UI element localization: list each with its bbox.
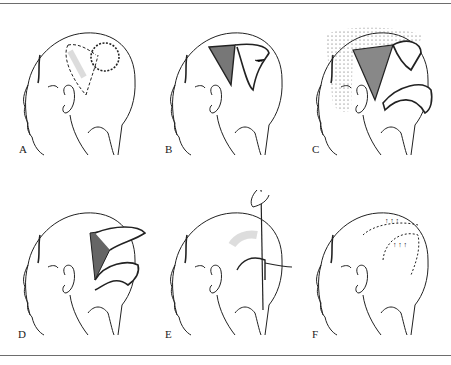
panel-label-a: A (19, 143, 27, 155)
panel-e (157, 190, 297, 360)
head-illustration-icon (303, 10, 443, 160)
panel-label-b: B (165, 143, 172, 155)
panel-c (303, 10, 443, 180)
panel-label-f: F (312, 328, 318, 340)
head-illustration-icon (157, 10, 297, 160)
head-illustration-icon (157, 190, 297, 340)
bottom-rule (0, 355, 451, 356)
head-illustration-icon (10, 190, 150, 340)
panel-label-e: E (165, 328, 172, 340)
panel-b (157, 10, 297, 180)
panel-label-c: C (312, 143, 319, 155)
svg-text:↑ ↑ ↑: ↑ ↑ ↑ (385, 217, 399, 225)
svg-text:↑ ↑ ↑: ↑ ↑ ↑ (393, 241, 407, 249)
head-illustration-icon (10, 10, 150, 160)
panel-d (10, 190, 150, 360)
top-rule (0, 3, 451, 4)
panel-a (10, 10, 150, 180)
panel-f: ↑ ↑ ↑ ↑ ↑ ↑ (303, 190, 443, 360)
head-illustration-icon: ↑ ↑ ↑ ↑ ↑ ↑ (303, 190, 443, 340)
panel-label-d: D (18, 328, 26, 340)
